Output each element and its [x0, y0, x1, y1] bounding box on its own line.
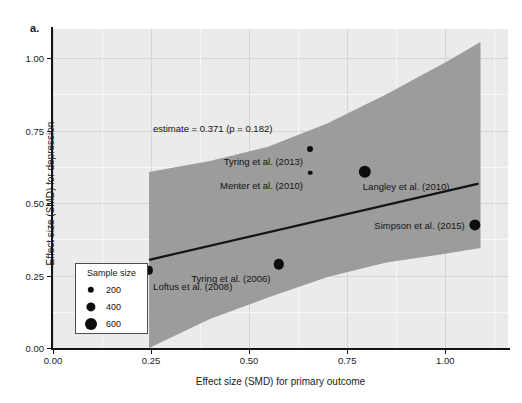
- legend-item-label: 400: [106, 302, 121, 312]
- data-point: [307, 146, 313, 152]
- x-tick-label: 0.50: [240, 355, 259, 366]
- x-tick-mark: [445, 350, 446, 354]
- data-point-label: Tyring et al. (2006): [191, 273, 270, 284]
- legend-item-label: 600: [106, 319, 121, 329]
- sample-size-legend: Sample size 200400600: [75, 263, 148, 334]
- y-tick-label: 0.25: [0, 270, 44, 281]
- y-tick-label: 1.00: [0, 53, 44, 64]
- legend-title: Sample size: [76, 268, 147, 278]
- y-tick-label: 0.75: [0, 125, 44, 136]
- panel-label: a.: [30, 22, 40, 34]
- legend-item-label: 200: [106, 285, 121, 295]
- legend-item: 200: [76, 282, 147, 298]
- x-tick-mark: [53, 350, 54, 354]
- x-axis-line: [51, 348, 510, 350]
- y-tick-label: 0.50: [0, 198, 44, 209]
- data-point: [308, 170, 313, 175]
- x-tick-label: 0.00: [44, 355, 63, 366]
- x-tick-label: 0.25: [142, 355, 161, 366]
- data-point-label: Menter et al. (2010): [220, 179, 303, 190]
- data-point-label: Tyring et al. (2013): [224, 156, 303, 167]
- legend-item: 600: [76, 316, 147, 332]
- legend-item: 400: [76, 299, 147, 315]
- legend-key-marker: [86, 302, 95, 311]
- y-tick-mark: [47, 348, 51, 349]
- legend-key-marker: [88, 287, 94, 293]
- data-point-label: Simpson et al. (2015): [374, 219, 464, 230]
- y-axis-title: Effect size (SMD) for depression: [45, 44, 56, 344]
- scatter-plot-figure: a. 0.000.250.500.751.00 0.000.250.500.75…: [0, 0, 522, 403]
- x-tick-mark: [151, 350, 152, 354]
- data-point-label: Langley et al. (2010): [363, 180, 450, 191]
- x-tick-mark: [347, 350, 348, 354]
- x-tick-label: 1.00: [436, 355, 455, 366]
- x-axis-title: Effect size (SMD) for primary outcome: [53, 376, 508, 387]
- y-tick-label: 0.00: [0, 343, 44, 354]
- x-tick-mark: [249, 350, 250, 354]
- estimate-annotation: estimate = 0.371 (p = 0.182): [153, 123, 272, 134]
- legend-key-marker: [85, 318, 97, 330]
- x-tick-label: 0.75: [338, 355, 357, 366]
